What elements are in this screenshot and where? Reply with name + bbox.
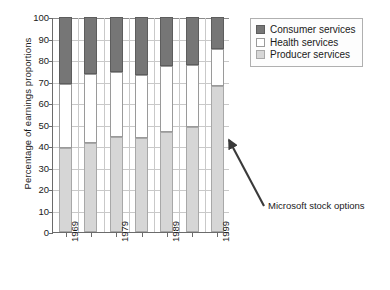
legend-label-health: Health services: [270, 37, 338, 49]
y-tick-label: 60: [38, 99, 49, 109]
x-gridline: [78, 18, 79, 232]
legend-item-health-services: Health services: [256, 37, 356, 49]
y-tick-mark: [49, 61, 53, 62]
bar-1974[interactable]: [84, 17, 97, 232]
x-tick-mark: [142, 232, 143, 237]
y-tick-mark: [49, 83, 53, 84]
bar-segment-consumer: [84, 17, 97, 74]
bar-1989[interactable]: [160, 17, 173, 232]
bar-segment-health: [211, 49, 224, 86]
bar-segment-health: [84, 74, 97, 143]
bar-segment-producer: [84, 143, 97, 232]
bar-segment-producer: [135, 138, 148, 232]
y-tick-label: 90: [38, 35, 49, 45]
bar-segment-health: [186, 65, 199, 126]
x-tick-mark: [91, 232, 92, 237]
x-gridline: [129, 18, 130, 232]
y-tick-mark: [49, 126, 53, 127]
bar-1999[interactable]: [211, 17, 224, 232]
y-tick-mark: [49, 40, 53, 41]
y-axis-title: Percentage of earnings proportions: [22, 9, 33, 219]
legend-label-consumer: Consumer services: [270, 24, 356, 36]
y-tick-label: 30: [38, 164, 49, 174]
annotation-label: Microsoft stock options: [268, 200, 365, 211]
legend: Consumer services Health services Produc…: [250, 18, 363, 67]
x-gridline: [154, 18, 155, 232]
legend-swatch-producer-icon: [256, 50, 265, 59]
y-tick-label: 50: [38, 121, 49, 131]
bar-segment-health: [135, 75, 148, 138]
x-tick-mark: [116, 232, 117, 237]
y-tick-mark: [49, 212, 53, 213]
x-tick-mark: [167, 232, 168, 237]
legend-swatch-consumer-icon: [256, 25, 265, 34]
bar-segment-consumer: [59, 17, 72, 84]
y-tick-mark: [49, 233, 53, 234]
y-tick-mark: [49, 169, 53, 170]
bar-segment-producer: [160, 132, 173, 232]
x-tick-mark: [217, 232, 218, 237]
y-tick-label: 80: [38, 56, 49, 66]
y-tick-label: 0: [44, 228, 49, 238]
x-tick-mark: [66, 232, 67, 237]
y-tick-label: 70: [38, 78, 49, 88]
plot-area: 0102030405060708090100: [52, 18, 229, 233]
y-tick-label: 100: [33, 13, 49, 23]
bar-segment-health: [160, 66, 173, 132]
legend-item-consumer-services: Consumer services: [256, 24, 356, 36]
legend-swatch-health-icon: [256, 38, 265, 47]
chart-container: Percentage of earnings proportions 01020…: [0, 0, 390, 290]
bar-segment-consumer: [186, 17, 199, 65]
bar-segment-consumer: [110, 17, 123, 72]
x-tick-mark: [192, 232, 193, 237]
x-tick-label-1999: 1999: [220, 221, 231, 242]
y-tick-mark: [49, 18, 53, 19]
legend-item-producer-services: Producer services: [256, 49, 356, 61]
y-tick-mark: [49, 104, 53, 105]
legend-label-producer: Producer services: [270, 49, 350, 61]
bar-segment-health: [59, 84, 72, 149]
x-gridline: [179, 18, 180, 232]
bar-1994[interactable]: [186, 17, 199, 232]
x-gridline: [205, 18, 206, 232]
x-gridline: [104, 18, 105, 232]
x-tick-label-1979: 1979: [119, 221, 130, 242]
x-tick-label-1969: 1969: [69, 221, 80, 242]
bar-segment-consumer: [160, 17, 173, 66]
bar-segment-producer: [110, 137, 123, 232]
y-tick-label: 10: [38, 207, 49, 217]
bar-segment-producer: [211, 86, 224, 232]
x-tick-label-1989: 1989: [170, 221, 181, 242]
bar-segment-consumer: [135, 17, 148, 75]
bar-1984[interactable]: [135, 17, 148, 232]
bar-segment-consumer: [211, 17, 224, 49]
y-tick-label: 40: [38, 142, 49, 152]
y-tick-mark: [49, 147, 53, 148]
bar-segment-producer: [186, 127, 199, 232]
bar-segment-producer: [59, 148, 72, 232]
bar-1979[interactable]: [110, 17, 123, 232]
bar-segment-health: [110, 72, 123, 138]
y-tick-mark: [49, 190, 53, 191]
y-tick-label: 20: [38, 185, 49, 195]
bar-1969[interactable]: [59, 17, 72, 232]
